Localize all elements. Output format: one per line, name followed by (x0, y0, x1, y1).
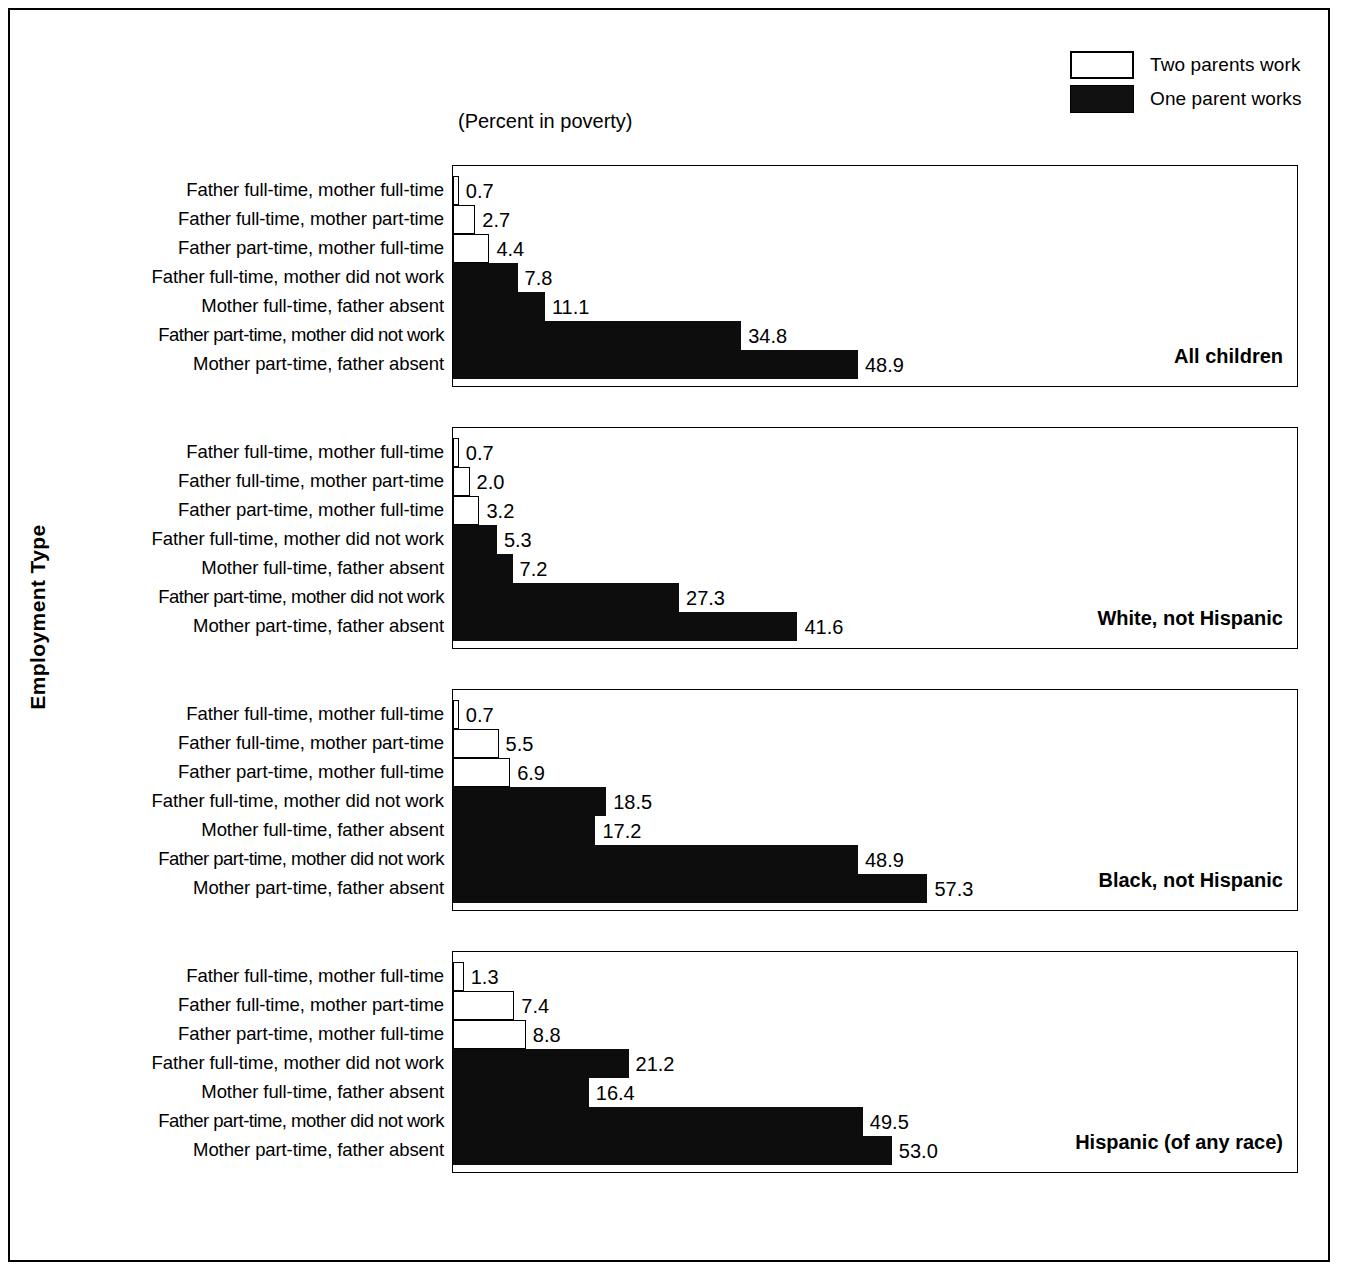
bar-row: 7.2 (453, 554, 1297, 583)
bar-row: 7.4 (453, 991, 1297, 1020)
chart-caption: (Percent in poverty) (458, 110, 633, 133)
category-label: Father part-time, mother did not work (100, 582, 444, 611)
bar-row: 0.7 (453, 176, 1297, 205)
bar-value-label: 5.3 (497, 528, 532, 551)
bar-two-parents-work (453, 1020, 526, 1049)
bar-one-parent-works (453, 350, 858, 379)
bar-value-label: 17.2 (595, 819, 641, 842)
category-label: Father part-time, mother did not work (100, 844, 444, 873)
category-label: Father part-time, mother did not work (100, 1106, 444, 1135)
bar-two-parents-work (453, 205, 475, 234)
legend-item-two-parents: Two parents work (1070, 48, 1340, 82)
bar-row: 5.5 (453, 729, 1297, 758)
bar-value-label: 4.4 (489, 237, 524, 260)
legend-swatch-two-parents-icon (1070, 51, 1134, 79)
bar-value-label: 27.3 (679, 586, 725, 609)
chart-panel: 1.37.48.821.216.449.553.0Hispanic (of an… (452, 951, 1298, 1173)
category-label: Mother part-time, father absent (100, 873, 444, 902)
bar-value-label: 57.3 (927, 877, 973, 900)
bar-one-parent-works (453, 816, 595, 845)
bar-one-parent-works (453, 787, 606, 816)
category-label: Father part-time, mother full-time (100, 233, 444, 262)
bar-row: 1.3 (453, 962, 1297, 991)
bar-one-parent-works (453, 292, 545, 321)
bar-value-label: 41.6 (797, 615, 843, 638)
legend-label-two-parents: Two parents work (1150, 54, 1301, 76)
category-label: Mother part-time, father absent (100, 349, 444, 378)
bar-one-parent-works (453, 1078, 589, 1107)
bar-two-parents-work (453, 496, 479, 525)
bar-value-label: 21.2 (629, 1052, 675, 1075)
category-label: Father full-time, mother did not work (100, 524, 444, 553)
bar-value-label: 7.2 (513, 557, 548, 580)
category-label: Father part-time, mother did not work (100, 320, 444, 349)
bar-value-label: 34.8 (741, 324, 787, 347)
bar-row: 5.3 (453, 525, 1297, 554)
category-label: Father full-time, mother did not work (100, 1048, 444, 1077)
category-label-column: Father full-time, mother full-timeFather… (100, 961, 444, 1164)
bar-value-label: 7.8 (518, 266, 553, 289)
bar-row: 11.1 (453, 292, 1297, 321)
bar-row: 3.2 (453, 496, 1297, 525)
panel-plot-area: 0.72.74.47.811.134.848.9All children (453, 166, 1297, 386)
bar-two-parents-work (453, 729, 499, 758)
bar-two-parents-work (453, 467, 470, 496)
bar-value-label: 8.8 (526, 1023, 561, 1046)
bar-value-label: 49.5 (863, 1110, 909, 1133)
bar-two-parents-work (453, 758, 510, 787)
legend-swatch-one-parent-icon (1070, 85, 1134, 113)
category-label: Father part-time, mother full-time (100, 495, 444, 524)
bar-value-label: 48.9 (858, 848, 904, 871)
bar-row: 4.4 (453, 234, 1297, 263)
bar-row: 16.4 (453, 1078, 1297, 1107)
bar-one-parent-works (453, 1049, 629, 1078)
bar-value-label: 1.3 (464, 965, 499, 988)
legend: Two parents work One parent works (1070, 48, 1340, 116)
chart-page: Two parents work One parent works Employ… (0, 0, 1345, 1274)
panel-plot-area: 0.75.56.918.517.248.957.3Black, not Hisp… (453, 690, 1297, 910)
bar-row: 0.7 (453, 438, 1297, 467)
bar-value-label: 2.0 (470, 470, 505, 493)
bar-value-label: 0.7 (459, 703, 494, 726)
bar-one-parent-works (453, 525, 497, 554)
panel-title: All children (1174, 345, 1283, 368)
category-label: Father full-time, mother did not work (100, 262, 444, 291)
panel-title: Hispanic (of any race) (1075, 1131, 1283, 1154)
bar-row: 2.0 (453, 467, 1297, 496)
bar-row: 6.9 (453, 758, 1297, 787)
bar-two-parents-work (453, 234, 489, 263)
category-label: Mother full-time, father absent (100, 1077, 444, 1106)
bar-two-parents-work (453, 962, 464, 991)
category-label: Mother part-time, father absent (100, 1135, 444, 1164)
bar-value-label: 0.7 (459, 441, 494, 464)
y-axis-title: Employment Type (26, 517, 50, 717)
bar-row: 18.5 (453, 787, 1297, 816)
bar-value-label: 53.0 (892, 1139, 938, 1162)
bar-value-label: 18.5 (606, 790, 652, 813)
bar-one-parent-works (453, 554, 513, 583)
category-label: Mother part-time, father absent (100, 611, 444, 640)
chart-panel: 0.72.74.47.811.134.848.9All children (452, 165, 1298, 387)
bar-two-parents-work (453, 991, 514, 1020)
category-label-column: Father full-time, mother full-timeFather… (100, 175, 444, 378)
chart-panel: 0.75.56.918.517.248.957.3Black, not Hisp… (452, 689, 1298, 911)
bar-value-label: 16.4 (589, 1081, 635, 1104)
category-label: Mother full-time, father absent (100, 815, 444, 844)
category-label-column: Father full-time, mother full-timeFather… (100, 699, 444, 902)
bar-value-label: 11.1 (545, 295, 589, 318)
category-label: Father part-time, mother full-time (100, 757, 444, 786)
panel-title: Black, not Hispanic (1099, 869, 1284, 892)
bar-one-parent-works (453, 583, 679, 612)
panel-plot-area: 0.72.03.25.37.227.341.6White, not Hispan… (453, 428, 1297, 648)
bar-one-parent-works (453, 612, 797, 641)
bar-value-label: 5.5 (499, 732, 534, 755)
bar-one-parent-works (453, 845, 858, 874)
bar-value-label: 2.7 (475, 208, 510, 231)
panel-plot-area: 1.37.48.821.216.449.553.0Hispanic (of an… (453, 952, 1297, 1172)
category-label: Mother full-time, father absent (100, 291, 444, 320)
category-label: Mother full-time, father absent (100, 553, 444, 582)
bar-value-label: 48.9 (858, 353, 904, 376)
bar-row: 8.8 (453, 1020, 1297, 1049)
bar-one-parent-works (453, 1107, 863, 1136)
category-label: Father full-time, mother full-time (100, 961, 444, 990)
